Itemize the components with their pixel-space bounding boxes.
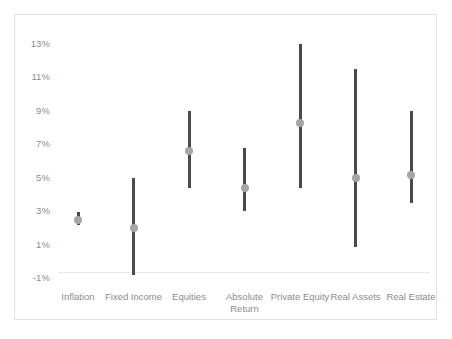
chart-container: 13% 11% 9% 7% 5% 3% 1% -1% InflationFixe… xyxy=(0,0,452,339)
chart-plot-frame xyxy=(14,14,437,320)
